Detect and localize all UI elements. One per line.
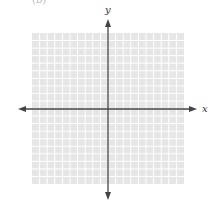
coordinate-plane: x y bbox=[0, 0, 218, 213]
y-axis-positive-arrow-icon bbox=[105, 19, 111, 27]
x-axis-positive-arrow-icon bbox=[189, 106, 197, 112]
y-axis-label: y bbox=[104, 4, 111, 15]
y-axis-negative-arrow-icon bbox=[105, 192, 111, 200]
x-axis-label: x bbox=[202, 103, 208, 114]
x-axis-negative-arrow-icon bbox=[18, 106, 26, 112]
